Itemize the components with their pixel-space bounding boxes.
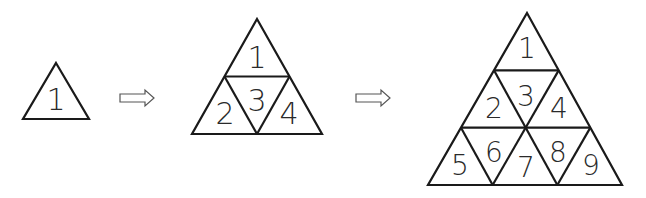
cell-number-label: 7 — [517, 151, 535, 184]
stage-2-triangle: 1234 — [192, 19, 322, 134]
right-arrow-icon — [120, 90, 154, 106]
triangle-subdivision-diagram: 11234123456789 — [0, 0, 646, 198]
cell-number-label: 2 — [215, 96, 234, 131]
cell-number-label: 1 — [247, 40, 266, 75]
stage-3-triangle: 123456789 — [428, 13, 622, 185]
cell-number-label: 5 — [451, 149, 469, 182]
cell-number-label: 1 — [518, 32, 536, 65]
cell-number-label: 1 — [46, 82, 65, 117]
cell-number-label: 4 — [550, 92, 568, 125]
right-arrow-icon — [356, 90, 390, 106]
cell-number-label: 6 — [485, 136, 503, 169]
cell-number-label: 9 — [582, 149, 600, 182]
stage-1-triangle: 1 — [23, 63, 89, 119]
cell-number-label: 3 — [247, 83, 266, 118]
cell-number-label: 8 — [549, 136, 567, 169]
cell-number-label: 4 — [279, 96, 298, 131]
cell-number-label: 2 — [485, 92, 503, 125]
cell-number-label: 3 — [517, 80, 535, 113]
